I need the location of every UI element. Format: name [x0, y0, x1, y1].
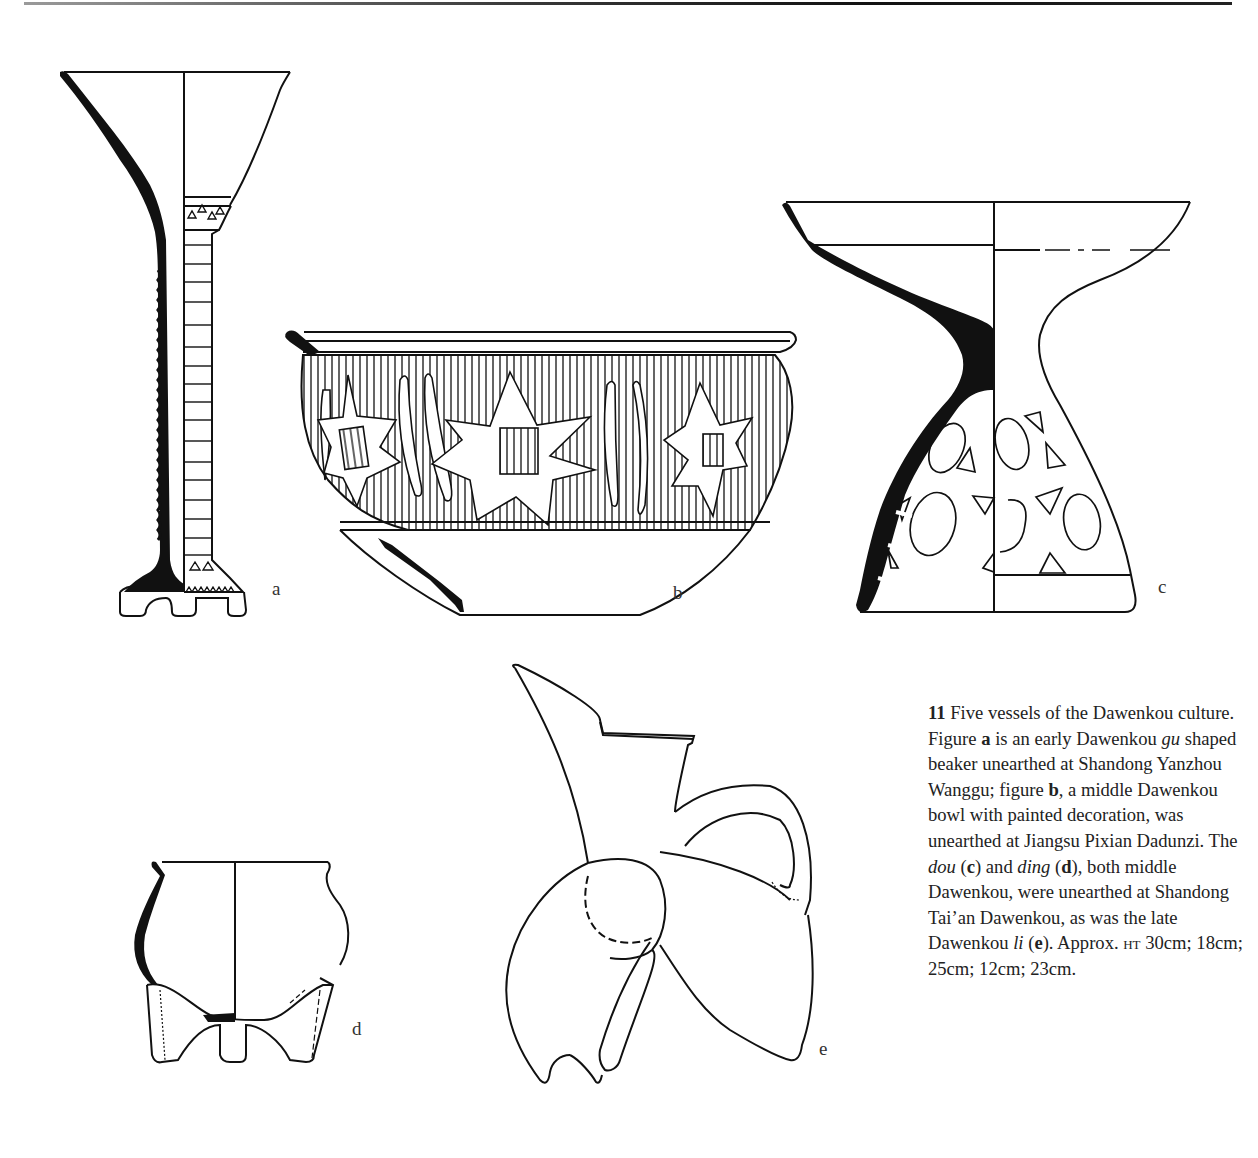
figure-caption: 11 Five vessels of the Dawenkou culture.…: [928, 700, 1248, 982]
vessel-c-section: [782, 203, 994, 612]
figure-label-d: d: [352, 1018, 362, 1040]
figure-label-e: e: [819, 1038, 827, 1060]
vessel-b-painted-bowl: [285, 331, 796, 615]
figure-number: 11: [928, 702, 946, 723]
vessel-a-section: [60, 71, 184, 592]
vessel-e-li: [506, 665, 812, 1083]
vessel-a-gu-beaker: [64, 72, 290, 616]
height-abbr: ht: [1123, 932, 1140, 953]
figure-label-a: a: [272, 578, 280, 600]
vessel-drawings: [0, 0, 1258, 1158]
vessel-d-ding: [147, 862, 348, 1062]
figure-label-b: b: [673, 582, 683, 604]
vessel-d-section: [134, 862, 165, 985]
vessel-b-section-rim: [285, 331, 320, 356]
figure-label-c: c: [1158, 576, 1166, 598]
vessel-b-section-base: [378, 538, 464, 612]
